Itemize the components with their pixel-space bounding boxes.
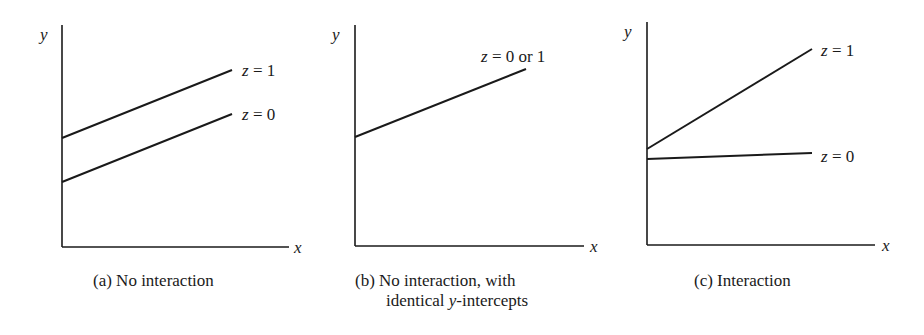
caption-text: -intercepts <box>456 291 528 310</box>
panel-a: y x z = 1 z = 0 <box>38 25 302 257</box>
panel-c-x-label: x <box>881 236 890 255</box>
panel-c-line-z1 <box>647 49 812 149</box>
panel-a-label-z1: z = 1 <box>241 61 275 80</box>
panel-c-y-label: y <box>622 22 632 41</box>
panel-a-label-z0: z = 0 <box>241 105 275 124</box>
panel-a-line-z0 <box>62 114 232 182</box>
panel-b-caption-line1: (b) No interaction, with <box>355 271 516 291</box>
panel-c: y x z = 1 z = 0 <box>622 22 890 255</box>
panel-b: y x z = 0 or 1 <box>330 25 598 256</box>
panel-c-label-z1: z = 1 <box>820 41 854 60</box>
panel-b-y-label: y <box>330 25 340 44</box>
panel-c-line-z0 <box>647 153 812 159</box>
caption-text: identical <box>386 291 449 310</box>
panel-b-x-label: x <box>589 237 598 256</box>
panel-a-caption: (a) No interaction <box>93 271 214 291</box>
panel-a-x-label: x <box>293 238 302 257</box>
panel-b-caption-line2: identical y-intercepts <box>386 291 528 311</box>
panel-c-label-z0: z = 0 <box>820 147 854 166</box>
panel-a-y-label: y <box>38 25 48 44</box>
panel-c-caption: (c) Interaction <box>694 271 791 291</box>
panel-b-label-z: z = 0 or 1 <box>480 47 545 66</box>
panel-a-line-z1 <box>62 70 232 138</box>
panel-b-line-z <box>355 69 526 137</box>
